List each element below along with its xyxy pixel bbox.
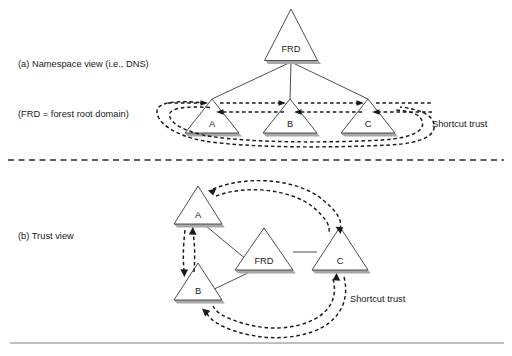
shadow-frd-trustview	[235, 270, 296, 274]
label-shortcut-trust-trustview: Shortcut trust	[350, 294, 406, 304]
shadow-b-namespace	[263, 133, 320, 137]
trust-view-section: (b) Trust view A B FRD C	[18, 181, 406, 338]
namespace-view-section: (a) Namespace view (i.e., DNS) (FRD = fo…	[18, 9, 488, 147]
label-frd-trustview: FRD	[254, 256, 273, 266]
trust-arrow-a-to-b-down	[183, 230, 185, 272]
shortcut-arc-a-to-c-outer	[213, 181, 341, 229]
arrowhead-up-to-a	[189, 227, 197, 235]
shortcut-arc-c-to-b-inner	[213, 279, 334, 328]
label-frd-namespace: FRD	[281, 44, 300, 54]
arrowhead-down-to-b	[180, 269, 188, 277]
trust-arrows-a-b	[183, 230, 194, 272]
node-frd-namespace: FRD	[265, 9, 322, 64]
shortcut-arc-a-to-c-inner	[216, 190, 329, 232]
link-frd-to-b	[290, 62, 291, 99]
label-c-namespace: C	[365, 119, 372, 129]
arrowhead-into-b-trustview	[202, 309, 210, 317]
trust-arrow-b-to-a-up	[193, 232, 195, 272]
trust-shortcut-a-to-c	[213, 181, 341, 232]
label-shortcut-trust-namespace: Shortcut trust	[432, 119, 488, 129]
label-c-trustview: C	[337, 256, 344, 266]
node-a-namespace: A	[185, 99, 242, 137]
shadow-c-trustview	[312, 270, 371, 274]
trust-arrowheads-c-b	[202, 273, 340, 317]
node-frd-trustview: FRD	[235, 228, 296, 274]
label-a-trustview: A	[195, 210, 202, 220]
shadow-b-trustview	[174, 300, 225, 304]
node-b-namespace: B	[263, 99, 320, 137]
shadow-c-namespace	[341, 133, 398, 137]
link-frd-to-c	[291, 62, 368, 99]
node-c-namespace: C	[341, 99, 398, 137]
label-a-namespace: A	[209, 119, 216, 129]
trust-relationship-diagram: (a) Namespace view (i.e., DNS) (FRD = fo…	[0, 0, 512, 356]
node-c-trustview: C	[312, 227, 371, 274]
node-b-trustview: B	[174, 263, 225, 304]
link-frd-to-a	[212, 62, 291, 99]
caption-trust-view: (b) Trust view	[18, 231, 74, 241]
shortcut-arc-c-to-b-outer	[206, 277, 346, 338]
tvlink-frd-to-a	[206, 226, 247, 260]
arrowhead-into-a-trustview	[208, 189, 216, 196]
trust-arrowheads-a-c	[208, 189, 343, 234]
label-b-trustview: B	[195, 286, 201, 296]
trust-shortcut-c-to-b	[206, 277, 346, 338]
shadow-frd-namespace	[266, 61, 322, 65]
label-b-namespace: B	[287, 119, 293, 129]
namespace-tree-links	[212, 62, 368, 99]
arrowhead-up-to-c	[333, 273, 341, 281]
caption-namespace-view: (a) Namespace view (i.e., DNS)	[18, 59, 149, 69]
shadow-a-trustview	[174, 224, 225, 228]
note-frd-definition: (FRD = forest root domain)	[18, 109, 129, 119]
shadow-a-namespace	[185, 133, 242, 137]
node-a-trustview: A	[174, 186, 225, 228]
